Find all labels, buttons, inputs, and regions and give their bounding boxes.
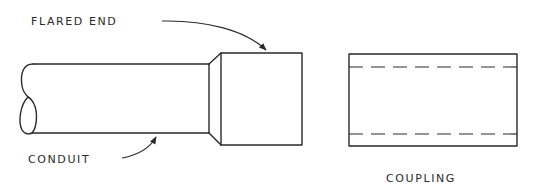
- coupling-outline: [349, 54, 517, 146]
- flare-taper: [209, 53, 221, 145]
- flare-top-taper: [209, 53, 221, 64]
- conduit-break-upper-curve: [21, 64, 33, 97]
- conduit-label: CONDUIT: [28, 153, 90, 166]
- conduit-coupling-diagram: FLARED END CONDUIT COUPLING: [0, 0, 538, 190]
- flared-end-leader-arrow: [162, 21, 266, 50]
- conduit-leader-arrow: [122, 137, 156, 158]
- flared-end-label: FLARED END: [31, 15, 117, 28]
- conduit-break-loop: [20, 97, 36, 134]
- coupling: [349, 54, 517, 146]
- flare-bottom-taper: [209, 133, 221, 145]
- flared-end-box: [221, 53, 302, 145]
- conduit-pipe: [20, 64, 209, 134]
- coupling-label: COUPLING: [386, 172, 456, 185]
